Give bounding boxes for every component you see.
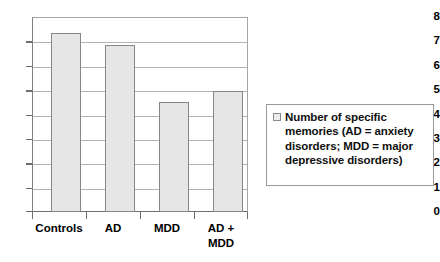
y-axis-label: 5 (418, 84, 440, 96)
x-axis-tick (86, 212, 87, 219)
x-axis-category-line: MDD (194, 236, 248, 251)
legend-label: Number of specific memories (AD = anxiet… (285, 110, 428, 167)
x-axis-tick (32, 212, 33, 219)
y-axis-label: 7 (418, 36, 440, 48)
bar-mdd[interactable] (159, 102, 189, 212)
y-axis-label: 6 (418, 60, 440, 72)
x-axis-tick (194, 212, 195, 219)
y-axis-label: 8 (418, 11, 440, 23)
x-axis-ticks (32, 212, 248, 219)
legend-swatch-icon (273, 113, 281, 121)
bars-container (32, 17, 248, 212)
x-axis-category-ad: AD (86, 221, 140, 236)
x-axis-category-mdd: MDD (140, 221, 194, 236)
bar-ad[interactable] (105, 45, 135, 213)
legend: Number of specific memories (AD = anxiet… (266, 104, 434, 186)
x-axis-category-ad-mdd: AD + MDD (194, 221, 248, 251)
x-axis-category-line: AD (86, 221, 140, 236)
x-axis-category-line: Controls (32, 221, 86, 236)
x-axis-category-line: MDD (140, 221, 194, 236)
x-axis-labels: Controls AD MDD AD + MDD (32, 221, 248, 261)
x-axis-tick (140, 212, 141, 219)
bar-controls[interactable] (51, 33, 81, 212)
bar-chart: 8 7 6 5 4 3 2 1 0 (0, 0, 440, 262)
chart-title (60, 0, 250, 1)
y-axis-label: 0 (418, 206, 440, 218)
y-axis-ticks (0, 17, 32, 212)
x-axis-category-controls: Controls (32, 221, 86, 236)
bar-ad-mdd[interactable] (213, 91, 243, 212)
x-axis-category-line: AD + (194, 221, 248, 236)
x-axis-tick (247, 212, 248, 219)
